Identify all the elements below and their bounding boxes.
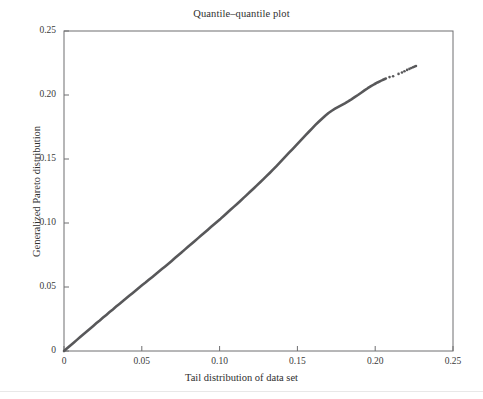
qq-tail-point	[388, 76, 391, 79]
y-tick-label: 0	[12, 345, 56, 355]
x-tick-label: 0.25	[431, 356, 475, 366]
qq-tail-point	[392, 75, 395, 78]
data-series-layer	[64, 65, 417, 351]
y-tick-label: 0.25	[12, 25, 56, 35]
x-tick-label: 0	[42, 356, 86, 366]
qq-plot-figure: Quantile–quantile plot 00.050.100.150.20…	[0, 0, 483, 399]
x-tick-label: 0.15	[275, 356, 319, 366]
qq-tail-point	[406, 69, 409, 72]
qq-tail-point	[401, 71, 404, 74]
x-tick-label: 0.05	[120, 356, 164, 366]
x-axis-label: Tail distribution of data set	[0, 372, 483, 383]
x-tick-label: 0.20	[353, 356, 397, 366]
scan-artifact-line	[0, 391, 483, 392]
y-axis-label: Generalized Pareto distribution	[31, 72, 42, 312]
qq-tail-point	[397, 73, 400, 76]
qq-dense-trace	[64, 81, 381, 351]
qq-tail-point	[403, 70, 406, 73]
plot-canvas	[0, 0, 483, 399]
x-tick-label: 0.10	[198, 356, 242, 366]
qq-tail-point	[384, 77, 387, 80]
qq-tail-point	[415, 65, 418, 68]
